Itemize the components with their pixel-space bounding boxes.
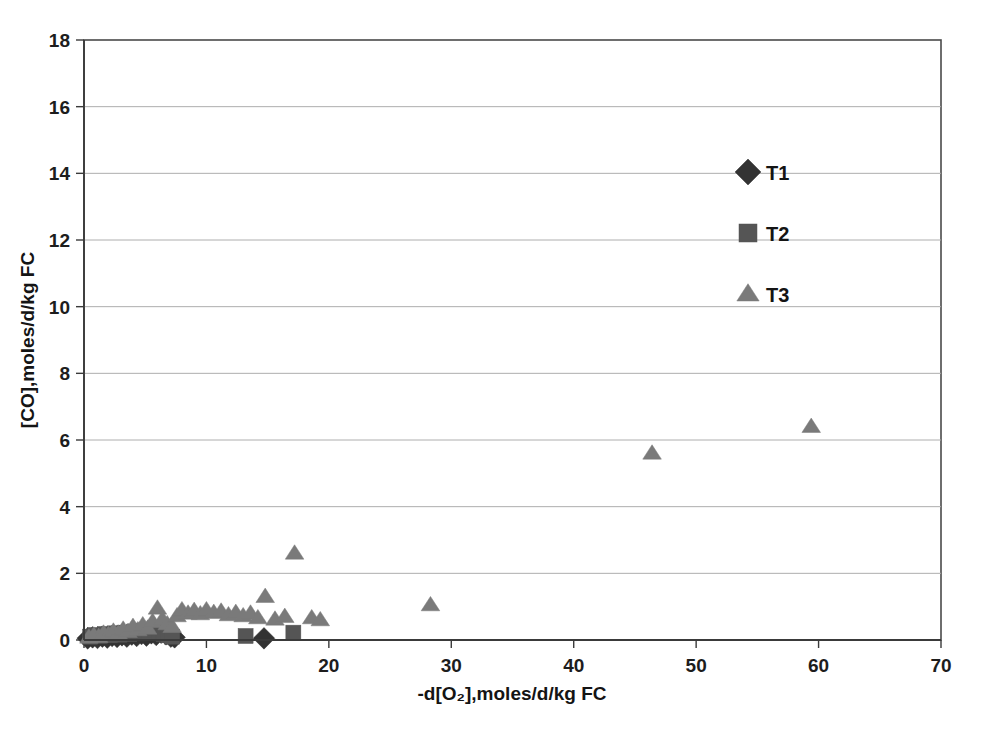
y-tick-label: 10 (49, 297, 70, 318)
data-point-t2 (238, 629, 253, 644)
x-tick-label: 0 (79, 655, 90, 676)
y-tick-label: 12 (49, 230, 70, 251)
y-tick-label: 4 (59, 497, 70, 518)
y-tick-label: 6 (59, 430, 70, 451)
y-axis-ticks (76, 40, 84, 640)
x-tick-label: 20 (318, 655, 339, 676)
x-tick-label: 50 (686, 655, 707, 676)
y-tick-label: 16 (49, 97, 70, 118)
x-tick-label: 30 (441, 655, 462, 676)
x-axis-tick-labels: 010203040506070 (79, 655, 952, 676)
y-axis-tick-labels: 024681012141618 (49, 30, 71, 651)
data-point-t2 (286, 625, 301, 640)
x-axis-ticks (84, 640, 941, 648)
y-tick-label: 2 (59, 563, 70, 584)
y-tick-label: 8 (59, 363, 70, 384)
legend-label-t1: T1 (766, 162, 789, 184)
plot-area-border (84, 40, 941, 640)
x-tick-label: 10 (196, 655, 217, 676)
y-tick-label: 0 (59, 630, 70, 651)
x-tick-label: 70 (930, 655, 951, 676)
x-tick-label: 40 (563, 655, 584, 676)
y-tick-label: 14 (49, 163, 71, 184)
y-axis-title: [CO],moles/d/kg FC (17, 252, 38, 429)
legend-label-t3: T3 (766, 284, 789, 306)
y-tick-label: 18 (49, 30, 70, 51)
x-tick-label: 60 (808, 655, 829, 676)
x-axis-title: -d[O₂],moles/d/kg FC (418, 683, 607, 704)
legend-label-t2: T2 (766, 223, 789, 245)
chart-figure: 010203040506070 024681012141618 -d[O₂],m… (0, 0, 983, 739)
legend-marker-t2 (739, 224, 757, 242)
scatter-plot: 010203040506070 024681012141618 -d[O₂],m… (0, 0, 983, 739)
